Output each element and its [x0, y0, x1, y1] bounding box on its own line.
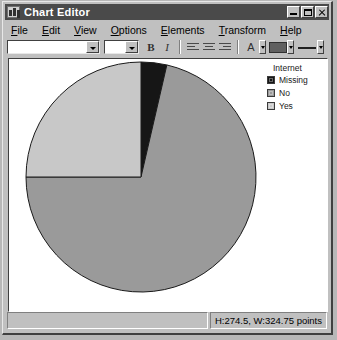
maximize-button[interactable] — [301, 6, 314, 18]
legend-label-no: No — [279, 88, 290, 98]
menu-label-transform: ransform — [225, 24, 266, 36]
menu-label-view: iew — [81, 24, 97, 36]
legend-item-missing[interactable]: Missing — [267, 75, 323, 85]
menu-item-view[interactable]: View — [74, 24, 97, 36]
status-dimensions-text: H:274.5, W:324.75 points — [215, 315, 322, 326]
legend-swatch-yes — [267, 102, 275, 110]
align-left-icon — [187, 43, 199, 52]
window-controls — [287, 6, 328, 18]
menu-item-edit[interactable]: Edit — [42, 24, 60, 36]
legend-label-missing: Missing — [279, 75, 308, 85]
align-right-icon — [219, 43, 231, 52]
align-left-button[interactable] — [185, 40, 201, 55]
menu-item-transform[interactable]: Transform — [219, 24, 266, 36]
align-center-button[interactable] — [201, 40, 217, 55]
pie-slices — [26, 62, 256, 292]
line-weight-button[interactable] — [297, 41, 317, 54]
legend-swatch-missing — [267, 76, 275, 84]
align-right-button[interactable] — [217, 40, 233, 55]
menu-item-file[interactable]: File — [11, 24, 28, 36]
chart-editor-icon — [7, 6, 20, 18]
legend-label-yes: Yes — [279, 101, 293, 111]
font-size-value — [105, 41, 125, 53]
status-bar: H:274.5, W:324.75 points — [7, 312, 327, 329]
toolbar-separator — [237, 40, 239, 54]
formatting-toolbar: B I A — [5, 38, 329, 56]
line-weight-chevron-down-icon[interactable] — [317, 40, 324, 54]
menu-bar: File Edit View Options Elements Transfor… — [5, 22, 329, 37]
menu-label-help: elp — [288, 24, 302, 36]
chart-legend: Internet Missing No Yes — [267, 63, 323, 114]
status-dimensions-pane: H:274.5, W:324.75 points — [210, 312, 327, 329]
menu-label-elements: lements — [168, 24, 205, 36]
font-family-value — [8, 41, 86, 53]
toolbar-separator — [179, 40, 181, 54]
fill-color-chevron-down-icon[interactable] — [287, 40, 294, 54]
legend-item-no[interactable]: No — [267, 88, 323, 98]
minimize-button[interactable] — [287, 6, 300, 18]
chart-editor-screenshot: Chart Editor File Edit View Options Elem… — [0, 0, 337, 340]
window-title: Chart Editor — [24, 6, 287, 18]
font-size-combo[interactable] — [104, 40, 139, 54]
legend-swatch-no — [267, 89, 275, 97]
font-family-combo[interactable] — [7, 40, 100, 54]
chart-editor-window: Chart Editor File Edit View Options Elem… — [2, 1, 333, 335]
legend-item-yes[interactable]: Yes — [267, 101, 323, 111]
chart-canvas[interactable]: Internet Missing No Yes — [8, 58, 328, 312]
menu-item-elements[interactable]: Elements — [161, 24, 205, 36]
fill-color-swatch[interactable] — [269, 42, 287, 53]
menu-label-options: ptions — [119, 24, 147, 36]
menu-item-help[interactable]: Help — [280, 24, 302, 36]
chevron-down-icon[interactable] — [125, 41, 138, 53]
pie-slice-yes[interactable] — [26, 62, 141, 177]
legend-title: Internet — [273, 63, 323, 73]
menu-item-options[interactable]: Options — [111, 24, 147, 36]
title-bar: Chart Editor — [5, 4, 329, 20]
close-button[interactable] — [315, 6, 328, 18]
menu-label-edit: dit — [49, 24, 60, 36]
italic-button[interactable]: I — [159, 40, 175, 55]
text-color-chevron-down-icon[interactable] — [259, 40, 266, 54]
text-color-button[interactable]: A — [243, 40, 259, 55]
menu-label-file: ile — [17, 24, 28, 36]
bold-button[interactable]: B — [143, 40, 159, 55]
align-center-icon — [203, 43, 215, 52]
status-filler — [7, 312, 208, 329]
chevron-down-icon[interactable] — [86, 41, 99, 53]
